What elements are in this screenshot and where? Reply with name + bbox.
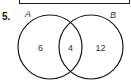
set-a-label: A	[24, 9, 31, 19]
region-b-only: 12	[95, 43, 105, 53]
region-a-only: 6	[38, 43, 43, 53]
venn-diagram: A B 6 4 12	[0, 0, 131, 80]
set-b-label: B	[110, 10, 116, 20]
region-a-and-b: 4	[68, 43, 73, 53]
